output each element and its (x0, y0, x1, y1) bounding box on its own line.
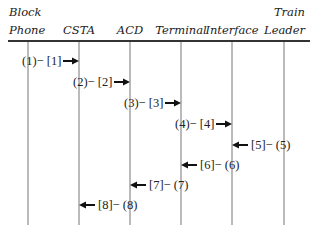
message-label: [5]− (5) (251, 138, 290, 152)
arrowhead-icon (181, 162, 188, 169)
message-label: (1)− [1] (22, 54, 61, 68)
message-8: [8]− (8) (79, 198, 137, 212)
participant-headers: Block Phone CSTA ACD Terminal Interface … (8, 5, 306, 37)
lifelines (28, 42, 284, 225)
header-csta: CSTA (63, 23, 95, 37)
header-interface: Interface (204, 23, 258, 37)
arrowhead-icon (123, 79, 130, 86)
sequence-diagram: Block Phone CSTA ACD Terminal Interface … (0, 0, 314, 237)
message-6: [6]− (6) (181, 158, 239, 172)
arrowhead-icon (72, 58, 79, 65)
header-train-leader-line1: Train (274, 5, 305, 19)
message-1: (1)− [1] (22, 54, 79, 68)
message-5: [5]− (5) (232, 138, 290, 152)
message-label: [7]− (7) (149, 178, 188, 192)
header-block-phone-line2: Phone (8, 23, 45, 37)
message-label: (3)− [3] (124, 96, 163, 110)
message-label: (2)− [2] (73, 75, 112, 89)
header-acd: ACD (116, 23, 143, 37)
message-7: [7]− (7) (130, 178, 188, 192)
arrowhead-icon (174, 100, 181, 107)
arrowhead-icon (79, 202, 86, 209)
arrowhead-icon (225, 121, 232, 128)
message-3: (3)− [3] (124, 96, 181, 110)
arrowhead-icon (130, 182, 137, 189)
message-4: (4)− [4] (175, 117, 232, 131)
messages: (1)− [1] (2)− [2] (3)− [3] (4)− [4] [5]−… (22, 54, 290, 212)
header-terminal: Terminal (155, 23, 207, 37)
message-2: (2)− [2] (73, 75, 130, 89)
message-label: (4)− [4] (175, 117, 214, 131)
message-label: [8]− (8) (98, 198, 137, 212)
header-block-phone-line1: Block (8, 5, 41, 19)
header-train-leader-line2: Leader (263, 23, 306, 37)
message-label: [6]− (6) (200, 158, 239, 172)
arrowhead-icon (232, 142, 239, 149)
